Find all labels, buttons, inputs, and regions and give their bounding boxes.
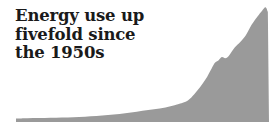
page-title: Energy use up fivefold since the 1950s — [15, 7, 165, 63]
headline-line-2: fivefold since — [15, 26, 165, 45]
headline-line-1: Energy use up — [15, 7, 165, 26]
energy-use-figure: Energy use up fivefold since the 1950s — [0, 0, 279, 133]
headline-line-3: the 1950s — [15, 44, 165, 63]
